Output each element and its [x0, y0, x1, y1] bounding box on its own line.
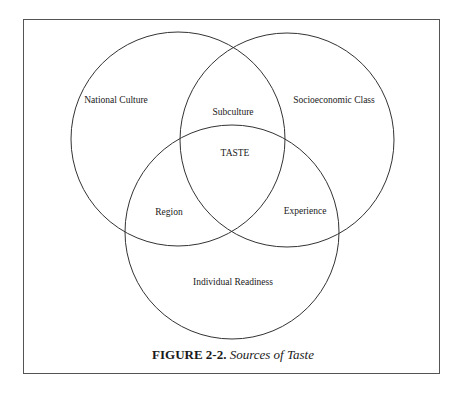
caption-title: Sources of Taste	[230, 347, 314, 362]
venn-diagram	[0, 0, 464, 394]
figure-caption: FIGURE 2-2. Sources of Taste	[152, 347, 314, 363]
label-socioeconomic-class: Socioeconomic Class	[293, 95, 375, 105]
label-experience: Experience	[284, 206, 327, 216]
label-individual-readiness: Individual Readiness	[193, 277, 273, 287]
label-region: Region	[155, 207, 182, 217]
caption-number: FIGURE 2-2.	[152, 347, 226, 362]
label-subculture: Subculture	[212, 107, 253, 117]
label-taste: TASTE	[221, 148, 250, 158]
label-national-culture: National Culture	[84, 95, 148, 105]
